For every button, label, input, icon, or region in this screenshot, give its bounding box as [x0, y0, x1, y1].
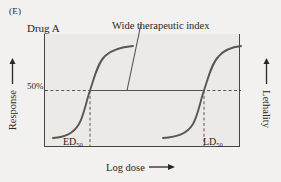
- ld50-text: LD: [203, 136, 216, 147]
- y-axis-right-group: Lethality: [258, 58, 274, 128]
- plot-canvas: [45, 34, 241, 147]
- arrow-right-icon: [149, 162, 175, 173]
- arrow-up-icon-left: [8, 58, 17, 88]
- ed50-marker-label: ED50: [63, 136, 83, 148]
- lethality-curve: [163, 46, 241, 138]
- ed50-text: ED: [63, 136, 76, 147]
- y-axis-left-label: Response: [7, 90, 18, 130]
- efficacy-curve: [53, 46, 133, 138]
- ld50-subscript: 50: [216, 141, 223, 148]
- plot-area: [44, 34, 240, 147]
- x-axis-label: Log dose: [106, 162, 175, 173]
- panel-label: (E): [9, 6, 21, 16]
- dose-response-figure: (E) Drug A Wide therapeutic index 50% ED…: [0, 0, 281, 182]
- midpoint-axis-label: 50%: [27, 81, 44, 91]
- x-axis-label-text: Log dose: [106, 162, 145, 173]
- title-leader-line: [127, 24, 141, 91]
- chart-title: Wide therapeutic index: [112, 20, 210, 31]
- ld50-marker-label: LD50: [203, 136, 223, 148]
- drug-series-label: Drug A: [27, 22, 60, 34]
- y-axis-left-group: Response: [4, 58, 20, 130]
- arrow-up-icon-right: [262, 58, 271, 88]
- y-axis-right-label: Lethality: [261, 90, 272, 128]
- ed50-subscript: 50: [76, 141, 83, 148]
